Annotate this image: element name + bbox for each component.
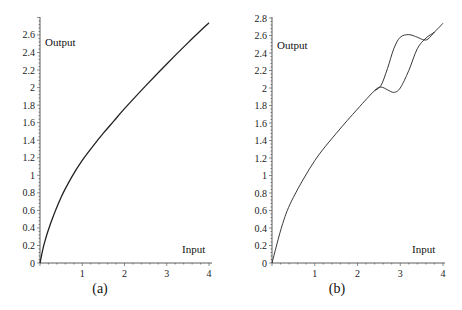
x-tick-labels: 1234 [80,268,212,279]
x-tick-label: 1 [312,268,317,279]
figure: 00.20.40.60.811.21.41.61.822.22.42.6 123… [0,0,462,310]
x-tick-label: 2 [355,268,360,279]
y-tick-label: 2.4 [23,47,36,58]
y-minor-ticks [269,18,272,263]
panel-caption: (a) [92,281,108,297]
x-axis-title: Input [412,243,435,255]
y-tick-label: 2 [262,83,267,94]
y-tick-label: 2.8 [255,13,268,24]
y-axis-title: Output [45,36,76,48]
y-tick-label: 0.6 [23,205,36,216]
y-tick-label: 0.4 [23,222,36,233]
x-minor-ticks [272,263,443,266]
y-tick-label: 0.8 [23,187,36,198]
y-tick-label: 2.4 [255,48,268,59]
y-axis-title: Output [277,39,308,51]
y-tick-label: 0 [262,258,267,269]
y-tick-label: 0.4 [255,223,268,234]
x-minor-ticks [40,263,209,266]
panel-a: 00.20.40.60.811.21.41.61.822.22.42.6 123… [23,17,213,297]
y-tick-label: 1.6 [255,118,268,129]
y-tick-label: 2 [30,82,35,93]
y-tick-labels: 00.20.40.60.811.21.41.61.822.22.42.6 [23,29,36,268]
y-tick-labels: 00.20.40.60.811.21.41.61.822.22.42.62.8 [255,13,268,269]
x-tick-label: 4 [441,268,446,279]
y-tick-label: 1.6 [23,117,36,128]
series-curves [272,23,443,263]
y-tick-label: 0.2 [255,240,268,251]
y-tick-label: 2.6 [255,30,268,41]
y-tick-label: 1 [262,170,267,181]
series-line [375,32,435,91]
y-tick-label: 0 [30,258,35,269]
x-tick-label: 2 [122,268,127,279]
y-tick-label: 2.2 [255,65,268,76]
panel-caption: (b) [329,281,346,297]
y-tick-label: 1 [30,170,35,181]
y-tick-label: 1.2 [23,152,36,163]
x-tick-label: 1 [80,268,85,279]
y-tick-label: 2.6 [23,29,36,40]
y-tick-label: 1.4 [255,135,268,146]
y-tick-label: 0.8 [255,188,268,199]
y-tick-label: 1.8 [23,100,36,111]
x-tick-label: 4 [207,268,212,279]
series-curves [40,23,209,263]
x-tick-labels: 1234 [312,268,445,279]
x-tick-label: 3 [164,268,169,279]
series-line [40,23,209,263]
panel-b: 00.20.40.60.811.21.41.61.822.22.42.62.8 … [255,13,446,298]
y-tick-label: 1.4 [23,135,36,146]
y-tick-label: 2.2 [23,65,36,76]
y-tick-label: 1.8 [255,100,268,111]
y-tick-label: 0.6 [255,205,268,216]
x-axis-title: Input [182,243,205,255]
y-tick-label: 0.2 [23,240,36,251]
y-minor-ticks [37,17,40,263]
x-tick-label: 3 [398,268,403,279]
series-line [272,23,443,263]
y-tick-label: 1.2 [255,153,268,164]
